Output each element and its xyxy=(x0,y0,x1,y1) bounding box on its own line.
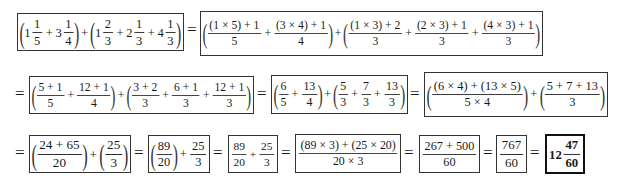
denominator: 3 xyxy=(193,154,203,168)
left-parenthesis: ( xyxy=(126,82,131,109)
mixed-number: 213 xyxy=(126,17,145,47)
operator: + xyxy=(162,88,169,101)
fraction: 12 + 13 xyxy=(212,81,247,108)
parenthesized-group: (53+73+133) xyxy=(334,80,405,108)
numerator: 6 xyxy=(279,80,288,94)
expression: (5 + 15+12 + 14)+(3 + 23+6 + 13+12 + 13) xyxy=(32,81,251,108)
left-parenthesis: ( xyxy=(426,80,431,108)
right-parenthesis: ) xyxy=(246,82,251,109)
numerator: 5 + 1 xyxy=(37,81,64,95)
operator: + xyxy=(67,88,74,101)
numerator: 767 xyxy=(500,139,523,155)
denominator: 3 xyxy=(504,34,513,47)
left-parenthesis: ( xyxy=(31,139,37,169)
parenthesized-group: (123+213+413) xyxy=(91,17,181,47)
left-parenthesis: ( xyxy=(99,139,105,169)
fraction: 5 + 15 xyxy=(36,81,65,108)
fraction-stack: (3 × 4) + 14 xyxy=(274,20,327,47)
whole-part: 1 xyxy=(24,25,30,39)
parenthesized-group: (5 + 15+12 + 14) xyxy=(32,81,115,108)
operator: + xyxy=(351,88,358,102)
parenthesized-group: ((1 × 5) + 15+(3 × 4) + 14) xyxy=(203,20,332,47)
fraction-stack: (6 × 4) + (13 × 5)5 × 4 xyxy=(432,80,523,109)
fraction: 253 xyxy=(189,139,207,168)
parenthesized-group: (65+134) xyxy=(274,80,322,108)
step-box-two-fractions: 8920+253 xyxy=(228,135,278,173)
fraction: (1 × 3) + 23 xyxy=(348,20,403,47)
right-parenthesis: ) xyxy=(600,80,605,108)
fraction-stack: 134 xyxy=(302,80,317,108)
parenthesized-group: ((6 × 4) + (13 × 5)5 × 4) xyxy=(427,80,528,109)
operator: + xyxy=(292,88,299,102)
right-parenthesis: ) xyxy=(317,81,322,108)
fraction-stack: 13 xyxy=(134,17,144,47)
denominator: 3 xyxy=(371,34,380,47)
fraction-stack: 133 xyxy=(384,80,399,108)
fraction: 65 xyxy=(278,80,289,108)
expression: 76760 xyxy=(499,139,524,170)
fraction-stack: 76760 xyxy=(500,139,523,170)
fraction-stack: 253 xyxy=(190,139,206,168)
numerator: 3 + 2 xyxy=(132,81,159,95)
denominator: 3 xyxy=(262,154,271,167)
fraction: (4 × 3) + 13 xyxy=(481,20,536,47)
parenthesized-group: ((1 × 3) + 23+(2 × 3) + 13+(4 × 3) + 13) xyxy=(344,20,540,47)
numerator: (2 × 3) + 1 xyxy=(415,20,468,34)
fraction-stack: 73 xyxy=(361,80,370,108)
whole-part: 4 xyxy=(157,25,163,39)
equals-sign: = xyxy=(15,143,25,163)
step-box-sum-numerators: (24 + 6520)+(253) xyxy=(29,135,131,173)
numerator: 13 xyxy=(302,80,317,94)
numerator: 6 + 1 xyxy=(172,81,199,95)
denominator: 3 xyxy=(567,95,577,109)
expression: (65+134)+(53+73+133) xyxy=(274,80,404,108)
denominator: 4 xyxy=(63,32,73,46)
equals-sign: = xyxy=(187,20,197,40)
operator: + xyxy=(530,87,537,101)
right-parenthesis: ) xyxy=(176,18,181,47)
fraction-stack: 14 xyxy=(63,17,73,47)
mixed-number: 115 xyxy=(24,17,43,47)
denominator: 4 xyxy=(305,95,314,109)
fraction: 253 xyxy=(259,141,275,168)
numerator: 12 + 1 xyxy=(77,81,110,95)
numerator: (4 × 3) + 1 xyxy=(482,20,535,34)
step-box-numerator-sum: 267 + 50060 xyxy=(419,135,480,173)
expression: (8920)+253 xyxy=(151,139,207,168)
left-parenthesis: ( xyxy=(539,80,544,108)
equals-sign: = xyxy=(281,143,291,163)
numerator: 7 xyxy=(361,80,370,94)
operator: + xyxy=(81,25,88,39)
expression: 8920+253 xyxy=(231,141,275,168)
left-parenthesis: ( xyxy=(90,18,95,47)
equals-sign: = xyxy=(257,84,267,104)
step-box-cross-multiply: (89 × 3) + (25 × 20)20 × 3 xyxy=(295,134,401,173)
numerator: 89 xyxy=(156,139,172,154)
mixed-number: 124760 xyxy=(549,139,581,169)
numerator: 12 + 1 xyxy=(213,81,246,95)
expression: (24 + 6520)+(253) xyxy=(32,138,127,169)
mixed-number: 314 xyxy=(55,17,74,47)
fraction-stack: 267 + 50060 xyxy=(423,140,476,169)
denominator: 20 xyxy=(51,154,68,169)
numerator: 13 xyxy=(384,80,399,94)
operator: + xyxy=(472,27,479,40)
right-parenthesis: ) xyxy=(172,140,177,168)
denominator: 60 xyxy=(564,154,580,169)
fraction: 267 + 50060 xyxy=(422,140,477,169)
step-box-numerator-expansion: (5 + 15+12 + 14)+(3 + 23+6 + 13+12 + 13) xyxy=(29,76,254,114)
fraction-stack: 6 + 13 xyxy=(172,81,199,108)
left-parenthesis: ( xyxy=(273,81,278,108)
fraction-stack: 12 + 14 xyxy=(77,81,110,108)
expression: 124760 xyxy=(549,139,581,169)
fraction-stack: 8920 xyxy=(156,139,172,168)
denominator: 3 xyxy=(109,154,119,169)
denominator: 3 xyxy=(361,95,370,109)
left-parenthesis: ( xyxy=(343,20,348,47)
parenthesized-group: (3 + 23+6 + 13+12 + 13) xyxy=(127,81,251,108)
expression: (115+314)+(123+213+413) xyxy=(20,17,180,47)
numerator: (1 × 3) + 2 xyxy=(349,20,402,34)
fraction: 6 + 13 xyxy=(171,81,200,108)
numerator: 25 xyxy=(190,139,206,154)
fraction: 8920 xyxy=(231,141,247,168)
